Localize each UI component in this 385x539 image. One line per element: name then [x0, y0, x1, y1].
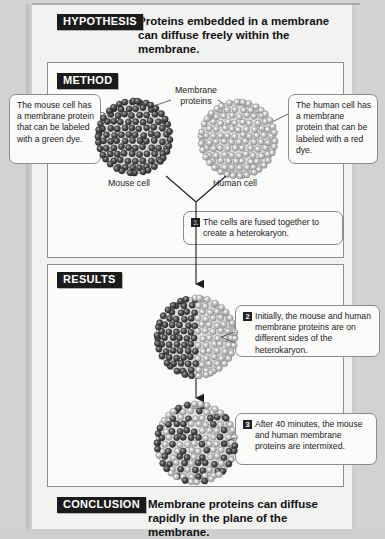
step-1-callout: 1 The cells are fused together to create… — [183, 211, 343, 245]
mouse-cell-callout: The mouse cell has a membrane protein th… — [9, 94, 101, 164]
step-2-number: 2 — [243, 312, 252, 321]
mouse-cell-label: Mouse cell — [108, 178, 150, 189]
human-cell-callout-text: The human cell has a membrane protein th… — [296, 100, 371, 156]
results-badge: RESULTS — [57, 272, 122, 288]
human-cell-label: Human cell — [213, 178, 257, 189]
step-1-number: 1 — [191, 218, 200, 227]
step-3-number: 3 — [243, 420, 252, 429]
hypothesis-badge: HYPOTHESIS — [57, 14, 143, 30]
mouse-cell-callout-text: The mouse cell has a membrane protein th… — [17, 100, 94, 145]
membrane-proteins-label: Membrane proteins — [153, 85, 239, 107]
conclusion-text: Membrane proteins can diffuse rapidly in… — [148, 497, 348, 539]
step-2-callout: 2 Initially, the mouse and human membran… — [235, 305, 380, 357]
method-badge: METHOD — [57, 73, 118, 89]
step-3-callout: 3 After 40 minutes, the mouse and human … — [235, 413, 377, 465]
page-top-edge — [32, 3, 360, 5]
step-3-text: After 40 minutes, the mouse and human me… — [255, 419, 370, 453]
membrane-proteins-label-line1: Membrane — [175, 85, 217, 95]
step-1-text: The cells are fused together to create a… — [203, 217, 336, 239]
step-2-text: Initially, the mouse and human membrane … — [255, 311, 373, 356]
conclusion-badge: CONCLUSION — [57, 497, 146, 513]
hypothesis-text: Proteins embedded in a membrane can diff… — [138, 14, 343, 56]
human-cell-callout: The human cell has a membrane protein th… — [288, 94, 378, 164]
membrane-proteins-label-line2: proteins — [180, 96, 211, 106]
